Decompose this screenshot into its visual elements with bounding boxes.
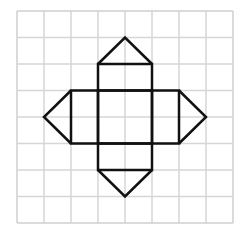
background-grid xyxy=(17,11,233,223)
grid-net-diagram xyxy=(0,0,243,239)
